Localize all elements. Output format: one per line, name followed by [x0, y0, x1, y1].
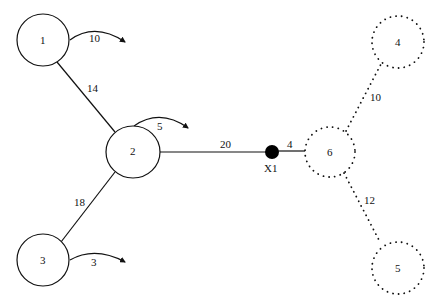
node-label-6: 6 — [327, 146, 333, 158]
edge-label-1-2: 14 — [87, 82, 99, 94]
node-label-1: 1 — [40, 34, 46, 46]
node-label-5: 5 — [395, 262, 401, 274]
node-1: 1 — [17, 14, 69, 66]
edge-label-6-4: 10 — [370, 91, 382, 103]
node-label-2: 2 — [130, 145, 136, 157]
outflow-label-node-2: 5 — [157, 120, 163, 132]
edge-label-X1-6: 4 — [287, 138, 293, 150]
edge-1-2: 14 — [57, 62, 115, 132]
junction-label-x1: X1 — [264, 162, 277, 174]
node-5: 5 — [372, 242, 424, 294]
edge-label-2-X1: 20 — [220, 138, 232, 150]
edge-6-5: 12 — [344, 173, 380, 242]
outflow-arrow-node-3: 3 — [70, 253, 125, 268]
outflow-label-node-1: 10 — [89, 32, 101, 44]
edge-6-4: 10 — [346, 64, 382, 131]
node-3: 3 — [17, 234, 69, 286]
node-2: 2 — [106, 126, 160, 178]
outflow-label-node-3: 3 — [91, 256, 97, 268]
junction-x1: X1 — [264, 145, 279, 174]
edge-label-6-5: 12 — [364, 194, 375, 206]
edge-X1-6: 4 — [278, 138, 305, 151]
node-4: 4 — [372, 16, 424, 68]
network-diagram: 14 18 20 4 10 12 10 5 3 1 2 — [0, 0, 439, 296]
edge-label-3-2: 18 — [74, 196, 86, 208]
node-label-4: 4 — [395, 36, 401, 48]
outflow-arrow-node-1: 10 — [70, 31, 125, 44]
edge-3-2: 18 — [61, 172, 115, 242]
edge-2-X1: 20 — [160, 138, 266, 152]
node-6: 6 — [305, 127, 355, 177]
node-label-3: 3 — [40, 254, 46, 266]
